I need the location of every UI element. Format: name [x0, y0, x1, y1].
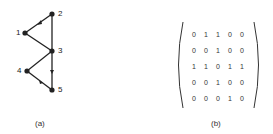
matrix-cell: 0 [212, 95, 224, 102]
matrix-row: 1 1 0 1 1 [188, 58, 248, 74]
matrix-cell: 1 [200, 31, 212, 38]
matrix-cell: 1 [212, 47, 224, 54]
matrix-cell: 0 [188, 79, 200, 86]
matrix-cell: 0 [236, 31, 248, 38]
matrix-cell: 1 [212, 79, 224, 86]
node-label-1: 1 [16, 28, 20, 37]
node-label-4: 4 [17, 66, 21, 75]
matrix-cell: 0 [212, 63, 224, 70]
matrix-cell: 0 [188, 47, 200, 54]
matrix-cell: 0 [236, 47, 248, 54]
matrix-cell: 1 [200, 63, 212, 70]
matrix-cell: 0 [236, 79, 248, 86]
matrix-cell: 0 [224, 47, 236, 54]
caption-a: (a) [35, 119, 45, 128]
matrix-cell: 0 [188, 31, 200, 38]
matrix-cell: 0 [200, 47, 212, 54]
matrix-row: 0 0 1 0 0 [188, 42, 248, 58]
matrix-cell: 0 [200, 95, 212, 102]
matrix-cell: 1 [224, 95, 236, 102]
matrix-cell: 0 [224, 31, 236, 38]
matrix-cell: 0 [188, 95, 200, 102]
node-label-3: 3 [58, 46, 62, 55]
matrix-cell: 0 [224, 79, 236, 86]
node-label-5: 5 [58, 85, 62, 94]
adjacency-matrix: 0 1 1 0 0 0 0 1 0 0 1 1 0 1 1 0 0 1 0 0 … [188, 26, 248, 106]
matrix-row: 0 0 0 1 0 [188, 90, 248, 106]
caption-b: (b) [211, 119, 221, 128]
matrix-cell: 0 [236, 95, 248, 102]
node-label-2: 2 [58, 9, 62, 18]
matrix-cell: 1 [224, 63, 236, 70]
matrix-row: 0 1 1 0 0 [188, 26, 248, 42]
matrix-cell: 1 [236, 63, 248, 70]
matrix-cell: 1 [212, 31, 224, 38]
matrix-row: 0 0 1 0 0 [188, 74, 248, 90]
matrix-cell: 1 [188, 63, 200, 70]
matrix-cell: 0 [200, 79, 212, 86]
